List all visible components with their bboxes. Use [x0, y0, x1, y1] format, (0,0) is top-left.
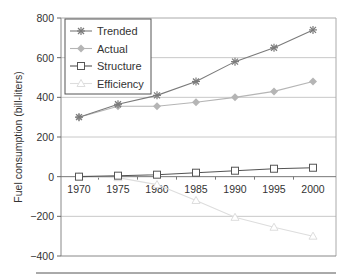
triangle-marker	[192, 196, 200, 203]
square-marker	[154, 171, 161, 178]
legend-label: Efficiency	[97, 78, 144, 90]
legend-label: Trended	[97, 25, 138, 37]
x-tick-label: 1970	[67, 183, 91, 195]
square-marker	[310, 164, 317, 171]
square-marker	[232, 167, 239, 174]
y-tick-label: 0	[48, 171, 54, 183]
diamond-marker	[270, 87, 278, 95]
y-tick-label: 200	[36, 131, 54, 143]
square-marker	[193, 169, 200, 176]
square-marker	[76, 173, 83, 180]
y-tick-label: −400	[30, 250, 54, 262]
x-tick-label: 1975	[106, 183, 130, 195]
square-marker	[271, 165, 278, 172]
legend-label: Actual	[97, 43, 128, 55]
y-axis-label: Fuel consumption (bill-liters)	[12, 71, 24, 202]
y-tick-label: 800	[36, 12, 54, 24]
x-tick-label: 1995	[262, 183, 286, 195]
legend: TrendedActualStructureEfficiency	[65, 19, 151, 94]
diamond-marker	[192, 98, 200, 106]
x-tick-label: 1985	[184, 183, 208, 195]
x-tick-label: 2000	[301, 183, 325, 195]
diamond-marker	[231, 93, 239, 101]
legend-label: Structure	[97, 60, 142, 72]
y-tick-label: 600	[36, 52, 54, 64]
y-tick-label: −200	[30, 210, 54, 222]
x-axis-ticks: 1970197519801985199019952000	[67, 177, 325, 195]
diamond-marker	[309, 77, 317, 85]
y-tick-label: 400	[36, 91, 54, 103]
x-tick-label: 1990	[223, 183, 247, 195]
diamond-marker	[153, 102, 161, 110]
square-marker	[78, 63, 85, 70]
square-marker	[115, 172, 122, 179]
fuel-consumption-chart: −400−2000200400600800 197019751980198519…	[0, 0, 349, 276]
y-axis-ticks: −400−2000200400600800	[30, 12, 61, 262]
